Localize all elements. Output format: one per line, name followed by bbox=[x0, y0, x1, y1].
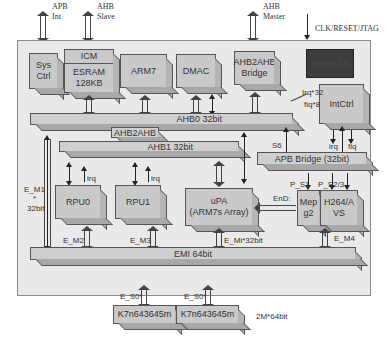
apb-bridge-bus: APB Bridge (32bit) bbox=[257, 152, 367, 165]
h264-avs-block: H264/AVS bbox=[320, 190, 358, 226]
e-s0-label-0: E_S0* bbox=[120, 292, 143, 301]
dmac-ahb1-link bbox=[212, 98, 213, 112]
clk-reset-jtag-arrow bbox=[307, 14, 308, 36]
sys-ctrl-block: SysCtrl bbox=[29, 53, 58, 89]
upa-block: uPA(ARM7s Array) bbox=[185, 188, 253, 226]
end-arrow bbox=[260, 205, 296, 211]
sdram-chip-0: K7n643645m bbox=[113, 305, 176, 324]
rpu0-irq-line bbox=[84, 170, 85, 182]
arm7-ahb0-arrow bbox=[142, 100, 148, 112]
p-s23-label: P_S2/3 bbox=[318, 180, 344, 189]
ahb2ahb-bridge-block: AHB2AHBBridge bbox=[234, 51, 275, 85]
rpu1-irq-line bbox=[148, 170, 149, 182]
e-m1-width-label: 32bit bbox=[27, 204, 44, 213]
rpu1-irq-label: irq bbox=[151, 174, 160, 183]
mpeg2-block: Mepg2 bbox=[297, 190, 320, 226]
ahb1-rpu0-link bbox=[69, 166, 70, 182]
end-label: EnD: bbox=[273, 194, 291, 203]
ahb0-bus: AHB0 32bit bbox=[30, 113, 293, 125]
e-mi-label: E_Mi*32bit bbox=[224, 236, 263, 245]
e-m1-label: E_M1 bbox=[24, 185, 45, 194]
e-m1-star-label: * bbox=[33, 194, 36, 203]
dmac-block: DMAC bbox=[176, 54, 216, 88]
e-m2-arrow bbox=[84, 231, 90, 246]
ahb1-rpu1-link bbox=[135, 166, 136, 182]
apb-int-port-arrow bbox=[40, 16, 46, 38]
p-s3-line bbox=[347, 173, 348, 186]
ahb2ahb-bridge-bus: AHB2AHB bbox=[111, 127, 159, 138]
ahb0-upa-link bbox=[244, 136, 245, 180]
e-m1-link-outline bbox=[44, 139, 51, 247]
rpu1-block: RPU1 bbox=[115, 185, 161, 219]
fiq-label: fiq bbox=[348, 142, 356, 151]
memory-size-label: 2M*64bit bbox=[256, 312, 288, 321]
rpu0-irq-label: irq bbox=[87, 174, 96, 183]
e-mi-arrow bbox=[216, 233, 222, 246]
emi-bus: EMI 64bit bbox=[30, 247, 356, 260]
icm-esram-block: ICM ESRAM128KB bbox=[64, 49, 114, 93]
dmac-ahb0-arrow bbox=[193, 100, 199, 112]
e-m3-label: E_M3 bbox=[130, 236, 151, 245]
ahb1-upa-arrow bbox=[216, 166, 222, 182]
kernel-block: Kernel 2.0 bbox=[306, 49, 354, 78]
intctrl-block: IntCtrl bbox=[319, 84, 364, 124]
irq32-label: Irq*32 bbox=[302, 88, 323, 97]
e-m2-label: E_M2 bbox=[63, 236, 84, 245]
e-s0-label-1: E_S0* bbox=[184, 292, 207, 301]
clk-reset-jtag-label: CLK/RESET/JTAG bbox=[315, 24, 379, 33]
p-s1-label: P_S1 bbox=[290, 180, 310, 189]
apb-int-label: APBInt bbox=[52, 2, 68, 22]
esram-ahb0-arrow bbox=[86, 100, 92, 112]
ahb-master-port-arrow bbox=[250, 16, 256, 38]
e-m4-arrow bbox=[322, 233, 328, 246]
fiq-line bbox=[351, 130, 352, 140]
s6-label: S6 bbox=[272, 141, 282, 150]
rpu0-block: RPU0 bbox=[55, 185, 101, 219]
e-m4-label: E_M4 bbox=[334, 234, 355, 243]
bridge-ahb0-arrow bbox=[252, 97, 258, 112]
ahb-master-label: AHBMaster bbox=[263, 2, 285, 22]
fiq8-label: fiq*8 bbox=[304, 100, 320, 109]
icm-label: ICM bbox=[65, 50, 113, 64]
ahb-slave-label: AHBSlave bbox=[97, 2, 115, 22]
ahb-slave-port-arrow bbox=[85, 16, 91, 38]
ahb1-bus: AHB1 32bit bbox=[59, 141, 239, 152]
arm7-block: ARM7 bbox=[120, 54, 167, 88]
irq-line bbox=[333, 130, 334, 140]
sdram-chip-1: K7n643645m bbox=[176, 305, 239, 324]
